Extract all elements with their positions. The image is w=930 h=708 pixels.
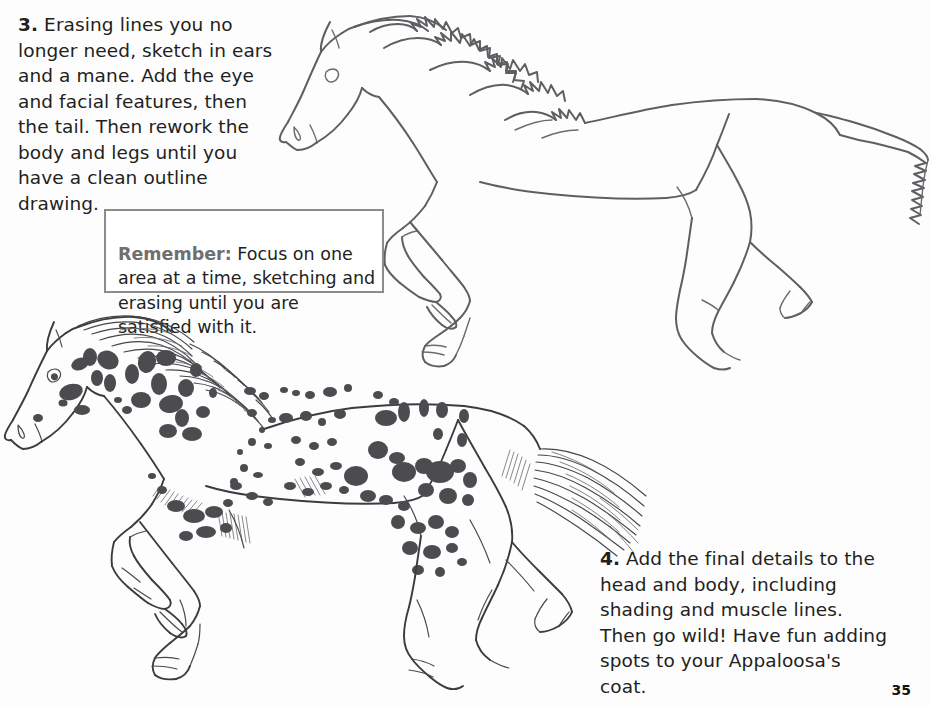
appaloosa-tail	[534, 449, 646, 556]
horse-appaloosa-drawing	[0, 300, 690, 708]
appaloosa-coat-spots	[33, 347, 477, 577]
horse-outline-head	[280, 16, 446, 182]
page-number: 35	[892, 682, 911, 698]
step-number: 4.	[600, 548, 620, 569]
step-3-instruction: 3. Erasing lines you no longer need, ske…	[18, 12, 280, 216]
step-4-instruction: 4. Add the final details to the head and…	[600, 546, 892, 699]
step-body: Add the final details to the head and bo…	[600, 548, 887, 697]
remember-callout-box: Remember: Focus on one area at a time, s…	[104, 209, 384, 293]
step-body: Erasing lines you no longer need, sketch…	[18, 14, 272, 214]
horse-outline-mane	[354, 17, 756, 138]
step-number: 3.	[18, 14, 38, 35]
remember-label: Remember:	[118, 244, 232, 264]
appaloosa-mane	[78, 316, 274, 429]
appaloosa-front-legs	[112, 522, 200, 679]
horse-outline-body	[387, 99, 840, 243]
horse-appaloosa-illustration	[0, 300, 690, 708]
